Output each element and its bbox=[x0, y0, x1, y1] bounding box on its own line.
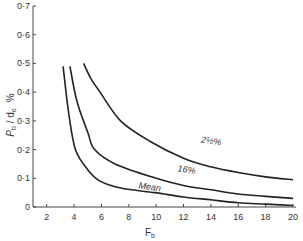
curves bbox=[63, 63, 293, 205]
x-axis-title: Fb bbox=[145, 227, 155, 239]
y-tick-label: 0·3 bbox=[17, 116, 30, 126]
curve-label: 2½% bbox=[199, 134, 222, 147]
chart: 246810121416182000·10·20·30·40·50·60·7 2… bbox=[0, 0, 303, 241]
y-tick-label: 0·7 bbox=[17, 1, 30, 11]
y-tick-label: 0·2 bbox=[17, 145, 30, 155]
y-tick-label: 0·4 bbox=[17, 87, 30, 97]
x-tick-label: 4 bbox=[72, 212, 77, 222]
x-tick-label: 8 bbox=[126, 212, 131, 222]
x-tick-label: 6 bbox=[99, 212, 104, 222]
x-tick-label: 16 bbox=[233, 212, 243, 222]
curve-label: 16% bbox=[177, 163, 196, 175]
y-tick-label: 0·1 bbox=[17, 173, 30, 183]
curve-2 bbox=[84, 63, 293, 179]
y-axis-title: Pb / do% bbox=[5, 93, 17, 136]
x-tick-label: 14 bbox=[206, 212, 216, 222]
x-tick-label: 10 bbox=[151, 212, 161, 222]
x-tick-label: 20 bbox=[288, 212, 298, 222]
y-tick-label: 0·5 bbox=[17, 58, 30, 68]
x-tick-label: 18 bbox=[261, 212, 271, 222]
curve-16 bbox=[70, 66, 293, 198]
y-tick-label: 0 bbox=[25, 202, 30, 212]
y-tick-label: 0·6 bbox=[17, 30, 30, 40]
x-tick-label: 12 bbox=[179, 212, 189, 222]
x-tick-label: 2 bbox=[44, 212, 49, 222]
